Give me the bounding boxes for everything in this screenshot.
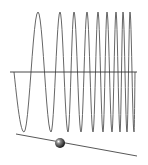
chirp-diagram — [0, 0, 148, 165]
slider-track[interactable] — [16, 134, 137, 156]
slider-knob[interactable] — [55, 138, 65, 148]
